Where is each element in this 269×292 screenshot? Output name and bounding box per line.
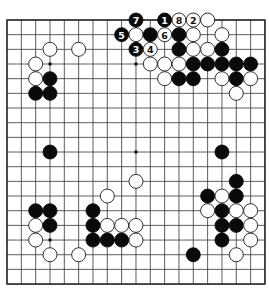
black-stone-icon [215, 57, 229, 71]
black-stone [86, 204, 100, 218]
black-stone-icon [215, 145, 229, 159]
white-stone [201, 42, 215, 56]
black-stone-icon [86, 218, 100, 232]
white-stone-icon [100, 218, 114, 232]
white-stone-move-4: 4 [143, 42, 157, 56]
move-number-label: 6 [161, 30, 168, 41]
move-number-label: 2 [190, 15, 197, 26]
white-stone [186, 28, 200, 42]
white-stone [215, 189, 229, 203]
white-stone [244, 233, 258, 247]
white-stone [29, 57, 43, 71]
white-stone [29, 218, 43, 232]
move-number-label: 1 [161, 15, 168, 26]
black-stone-move-3: 3 [129, 42, 143, 56]
white-stone [244, 204, 258, 218]
white-stone-icon [129, 218, 143, 232]
black-stone [215, 204, 229, 218]
black-stone-icon [229, 174, 243, 188]
black-stone-icon [43, 86, 57, 100]
white-stone-icon [229, 86, 243, 100]
white-stone-icon [172, 57, 186, 71]
white-stone [100, 218, 114, 232]
black-stone [229, 189, 243, 203]
white-stone [115, 218, 129, 232]
black-stone [29, 86, 43, 100]
white-stone [72, 42, 86, 56]
black-stone [100, 233, 114, 247]
white-stone-icon [72, 42, 86, 56]
black-stone [201, 57, 215, 71]
black-stone-icon [43, 218, 57, 232]
black-stone-icon [43, 145, 57, 159]
black-stone [43, 204, 57, 218]
black-stone [229, 57, 243, 71]
move-number-label: 8 [176, 15, 183, 26]
white-stone-icon [29, 57, 43, 71]
black-stone-icon [29, 204, 43, 218]
black-stone [215, 57, 229, 71]
white-stone-move-2: 2 [186, 13, 200, 27]
black-stone [115, 233, 129, 247]
white-stone [43, 248, 57, 262]
black-stone [86, 233, 100, 247]
white-stone [129, 174, 143, 188]
black-stone-icon [186, 72, 200, 86]
white-stone-icon [43, 42, 57, 56]
black-stone-move-1: 1 [158, 13, 172, 27]
black-stone-icon [186, 57, 200, 71]
white-stone-icon [29, 233, 43, 247]
white-stone [29, 72, 43, 86]
black-stone-icon [201, 57, 215, 71]
black-stone [229, 218, 243, 232]
white-stone-icon [186, 42, 200, 56]
white-stone-icon [201, 13, 215, 27]
white-stone-icon [129, 174, 143, 188]
white-stone-move-6: 6 [158, 28, 172, 42]
white-stone [43, 42, 57, 56]
black-stone [215, 218, 229, 232]
white-stone-icon [215, 189, 229, 203]
white-stone [244, 72, 258, 86]
black-stone [229, 72, 243, 86]
white-stone-icon [215, 28, 229, 42]
black-stone [244, 57, 258, 71]
white-stone-icon [72, 248, 86, 262]
move-number-label: 7 [133, 15, 140, 26]
black-stone-move-7: 7 [129, 13, 143, 27]
white-stone [158, 72, 172, 86]
white-stone-icon [244, 204, 258, 218]
white-stone [129, 233, 143, 247]
white-stone-icon [244, 72, 258, 86]
black-stone-icon [86, 204, 100, 218]
white-stone-icon [229, 204, 243, 218]
move-number-label: 5 [118, 30, 125, 41]
white-stone-icon [115, 218, 129, 232]
white-stone-icon [129, 233, 143, 247]
star-point [48, 62, 52, 66]
white-stone [229, 86, 243, 100]
white-stone [244, 218, 258, 232]
white-stone-icon [100, 189, 114, 203]
white-stone-icon [244, 233, 258, 247]
black-stone-icon [100, 233, 114, 247]
star-point [134, 62, 138, 66]
black-stone [172, 42, 186, 56]
white-stone-icon [129, 28, 143, 42]
black-stone-icon [215, 42, 229, 56]
white-stone-icon [244, 218, 258, 232]
black-stone-icon [186, 248, 200, 262]
black-stone [43, 86, 57, 100]
black-stone-icon [172, 72, 186, 86]
black-stone [186, 248, 200, 262]
white-stone-icon [158, 57, 172, 71]
white-stone [201, 204, 215, 218]
black-stone-icon [229, 189, 243, 203]
black-stone-icon [29, 86, 43, 100]
black-stone-icon [43, 72, 57, 86]
white-stone [72, 248, 86, 262]
black-stone [86, 218, 100, 232]
star-point [48, 238, 52, 242]
black-stone-icon [215, 233, 229, 247]
black-stone-icon [229, 72, 243, 86]
